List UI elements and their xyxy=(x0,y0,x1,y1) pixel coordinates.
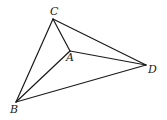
segment-cb xyxy=(16,19,53,102)
label-a: A xyxy=(65,51,74,64)
label-c: C xyxy=(50,5,59,18)
diagram-canvas: C A D B xyxy=(0,0,167,120)
geometry-diagram: C A D B xyxy=(0,0,167,120)
segment-ad xyxy=(70,51,146,65)
label-d: D xyxy=(147,63,157,76)
vertex-labels: C A D B xyxy=(9,5,157,116)
label-b: B xyxy=(9,103,18,116)
segments xyxy=(16,19,146,102)
